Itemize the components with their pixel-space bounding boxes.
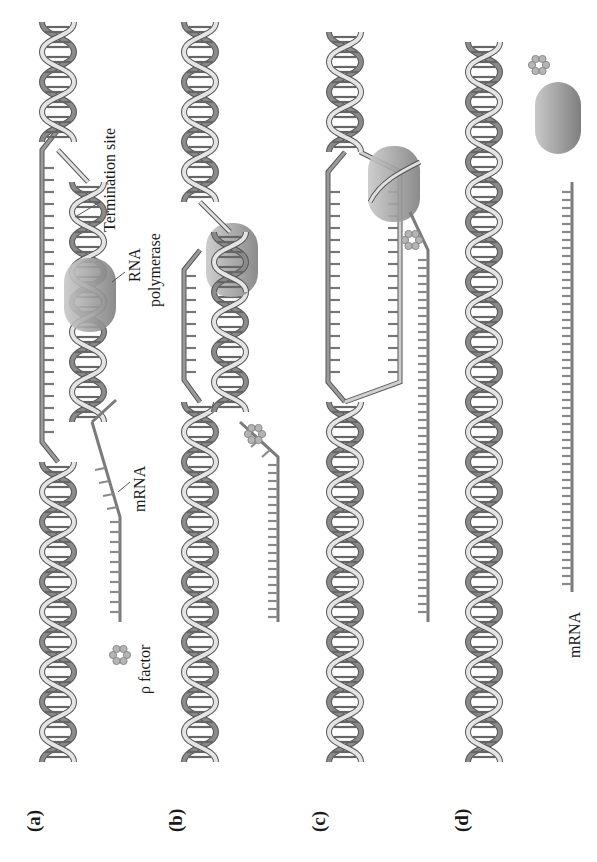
dna-helix-left-a xyxy=(42,462,74,762)
rho-termination-diagram: (a) xyxy=(0,0,597,862)
transcription-bubble-a xyxy=(42,130,58,462)
mrna-strand-c xyxy=(410,212,428,622)
panel-a: (a) xyxy=(23,22,164,832)
mrna-strand-a xyxy=(92,400,120,622)
panel-label-d: (d) xyxy=(451,809,473,832)
label-rna: RNA xyxy=(126,248,143,282)
label-mrna-a: mRNA xyxy=(131,465,148,512)
label-rho-factor: ρ factor xyxy=(136,644,154,694)
panel-c: (c) xyxy=(308,32,428,832)
label-mrna-d: mRNA xyxy=(566,611,583,658)
rna-polymerase-a xyxy=(64,258,116,332)
dna-helix-right-b xyxy=(184,22,216,202)
rho-factor-a xyxy=(109,645,130,664)
dna-helix-left-c xyxy=(329,402,361,762)
panel-b: (b) xyxy=(165,22,278,832)
dna-helix-left-b xyxy=(184,402,216,762)
released-rna-polymerase-d xyxy=(535,82,581,154)
rna-polymerase-c xyxy=(368,146,420,222)
rho-factor-c xyxy=(401,230,422,249)
label-termination-site: Termination site xyxy=(101,128,118,232)
dna-helix-middle-b xyxy=(214,292,246,412)
panel-label-a: (a) xyxy=(23,810,45,832)
dna-helix-right-a xyxy=(42,22,74,142)
dna-helix-right-c xyxy=(329,32,361,152)
dna-helix-d xyxy=(468,42,500,762)
panel-d: (d) xyxy=(451,42,583,832)
mrna-strand-b xyxy=(240,422,278,622)
released-rho-factor-d xyxy=(528,55,549,74)
released-mrna-d xyxy=(562,182,572,592)
diagram-stage: (a) xyxy=(0,0,597,862)
dna-helix-in-polymerase-a xyxy=(72,182,104,242)
label-polymerase: polymerase xyxy=(146,233,164,307)
panel-label-c: (c) xyxy=(308,811,330,832)
transcription-bubble-b xyxy=(184,250,200,402)
panel-label-b: (b) xyxy=(165,809,187,832)
